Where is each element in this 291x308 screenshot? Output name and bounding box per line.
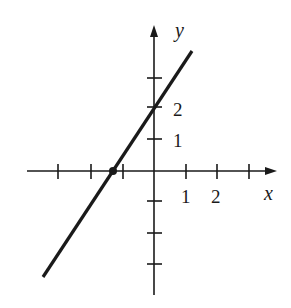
y-axis-label: y bbox=[173, 19, 184, 42]
y-tick-label-2: 2 bbox=[173, 99, 183, 120]
x-axis-arrow-icon bbox=[265, 167, 277, 175]
y-axis-arrow-icon bbox=[150, 25, 158, 37]
x-axis-label: x bbox=[263, 182, 273, 204]
y-tick-label-1: 1 bbox=[173, 130, 183, 151]
y-axis bbox=[147, 25, 162, 295]
coordinate-plane: y x 2 1 1 2 bbox=[0, 0, 291, 308]
x-axis bbox=[27, 164, 277, 179]
x-tick-label-2: 2 bbox=[211, 186, 221, 207]
graph-line bbox=[43, 51, 192, 277]
x-intercept-point bbox=[109, 167, 117, 175]
x-tick-label-1: 1 bbox=[181, 186, 191, 207]
